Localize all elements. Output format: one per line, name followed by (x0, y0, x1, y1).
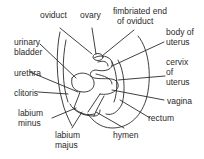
label-rectum: rectum (148, 114, 174, 124)
leader-labium-majus (72, 112, 82, 128)
label-urethra: urethra (14, 69, 41, 79)
leader-cervix (118, 76, 165, 80)
leader-labium-minus (52, 108, 76, 118)
inner-wall (63, 40, 68, 102)
label-urinary-line2: bladder (14, 48, 42, 58)
label-labium-minus-line2: minus (18, 119, 41, 129)
leader-body-uterus (112, 42, 164, 66)
leader-vagina (112, 90, 164, 100)
label-hymen: hymen (113, 131, 139, 141)
pelvis-outline (88, 36, 149, 128)
leader-clitoris (38, 92, 68, 94)
bladder-shape (72, 73, 95, 92)
vagina-shape (88, 94, 104, 116)
label-labium-majus-line2: majus (55, 141, 78, 151)
anatomy-diagram: oviduct ovary fimbriated end of oviduct … (0, 0, 204, 159)
rectum-shape (106, 60, 124, 115)
leader-ovary (92, 28, 96, 54)
label-clitoris: clitoris (14, 89, 38, 99)
leader-fimbriated (102, 30, 134, 56)
label-vagina: vagina (167, 97, 192, 107)
rectum-inner (112, 62, 117, 102)
urethra-shape (74, 92, 80, 108)
ovary-shape (93, 54, 103, 61)
label-ovary: ovary (80, 11, 101, 21)
label-cervix-line3: uterus (166, 78, 190, 88)
label-oviduct: oviduct (40, 11, 67, 21)
label-body-of-uterus-line2: uterus (166, 38, 190, 48)
uterus-inner (96, 61, 112, 84)
label-fimbriated-line2: of oviduct (117, 17, 153, 27)
